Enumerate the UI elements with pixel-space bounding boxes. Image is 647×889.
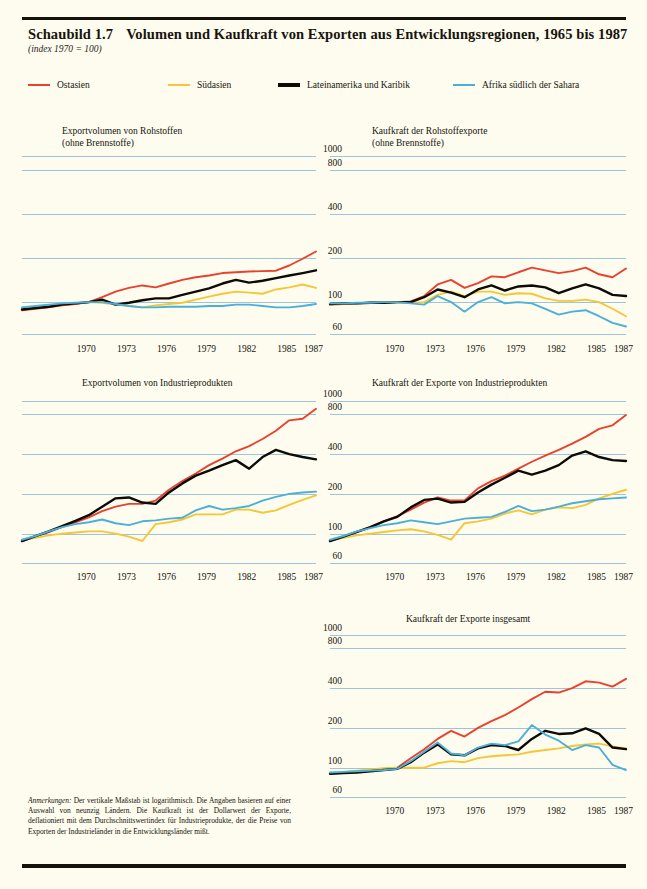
series-layer-kaufkraft-exporte-insgesamt xyxy=(0,0,647,889)
series-line-lateinamerika-und-karibik xyxy=(330,728,626,773)
series-line-ostasien xyxy=(330,679,626,774)
chart-kaufkraft-exporte-insgesamt: 1000800400200100601970197319761979198219… xyxy=(0,0,647,889)
footnote: Anmerkungen: Der vertikale Maßstab ist l… xyxy=(28,796,291,837)
figure-page: Schaubild 1.7Volumen und Kaufkraft von E… xyxy=(0,0,647,889)
footnote-lead: Anmerkungen: xyxy=(28,796,72,805)
